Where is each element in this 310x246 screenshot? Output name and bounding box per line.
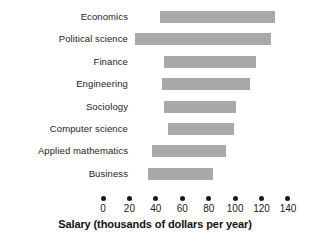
bar bbox=[164, 101, 237, 113]
bar bbox=[148, 168, 213, 180]
bar bbox=[135, 33, 271, 45]
x-axis-title: Salary (thousands of dollars per year) bbox=[0, 218, 310, 230]
x-tick-label: 140 bbox=[273, 203, 303, 214]
x-tick-dot bbox=[259, 196, 264, 201]
bar bbox=[160, 11, 275, 23]
category-label-column: EconomicsPolitical scienceFinanceEnginee… bbox=[0, 0, 128, 190]
category-label: Engineering bbox=[8, 79, 128, 89]
x-tick-dot bbox=[127, 196, 132, 201]
x-tick-dot bbox=[285, 196, 290, 201]
category-label: Computer science bbox=[8, 124, 128, 134]
x-tick-dot bbox=[206, 196, 211, 201]
x-tick-dot bbox=[153, 196, 158, 201]
category-label: Political science bbox=[8, 34, 128, 44]
category-label: Business bbox=[8, 169, 128, 179]
bar bbox=[168, 123, 234, 135]
salary-bar-chart: EconomicsPolitical scienceFinanceEnginee… bbox=[0, 0, 310, 246]
category-label: Finance bbox=[8, 57, 128, 67]
x-axis: Salary (thousands of dollars per year) 0… bbox=[0, 190, 310, 246]
bar bbox=[152, 145, 226, 157]
category-label: Applied mathematics bbox=[8, 146, 128, 156]
category-label: Economics bbox=[8, 12, 128, 22]
category-label: Sociology bbox=[8, 102, 128, 112]
x-tick-dot bbox=[233, 196, 238, 201]
bar bbox=[164, 56, 256, 68]
x-tick-dot bbox=[101, 196, 106, 201]
bar bbox=[162, 78, 249, 90]
plot-area: EconomicsPolitical scienceFinanceEnginee… bbox=[0, 0, 310, 190]
x-tick-dot bbox=[180, 196, 185, 201]
